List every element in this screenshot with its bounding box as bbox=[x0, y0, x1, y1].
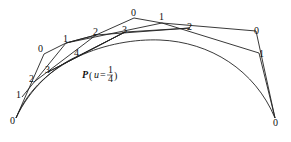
label-top-2: 2 bbox=[187, 21, 192, 32]
curve-point-label: P ( u = 1 4 ) bbox=[82, 64, 117, 84]
label-P: P bbox=[82, 69, 89, 80]
label-right-end: 0 bbox=[273, 117, 278, 128]
label-denominator: 4 bbox=[108, 73, 113, 84]
label-top-1: 1 bbox=[159, 11, 164, 22]
label-outer-0a: 0 bbox=[38, 43, 43, 54]
bezier-curve bbox=[16, 40, 275, 118]
label-mid-2a: 2 bbox=[93, 26, 98, 37]
label-right-0: 0 bbox=[254, 25, 259, 36]
label-left-1: 1 bbox=[16, 89, 21, 100]
label-u: u bbox=[94, 69, 99, 80]
label-top-0: 0 bbox=[131, 7, 136, 18]
label-left-3: 3 bbox=[45, 64, 50, 75]
label-left-2: 2 bbox=[29, 73, 34, 84]
label-outer-1a: 1 bbox=[63, 33, 68, 44]
label-equals: = bbox=[100, 69, 106, 80]
paren-close: ) bbox=[114, 70, 117, 82]
de-casteljau-diagram: 0 1 2 3 4 0 1 2 3 0 1 2 0 1 0 P ( u = 1 … bbox=[0, 0, 291, 142]
label-mid-3a: 3 bbox=[122, 24, 127, 35]
paren-open: ( bbox=[89, 70, 93, 82]
label-left-4: 4 bbox=[74, 47, 79, 58]
label-right-1: 1 bbox=[259, 48, 264, 59]
label-left-end: 0 bbox=[10, 115, 15, 126]
